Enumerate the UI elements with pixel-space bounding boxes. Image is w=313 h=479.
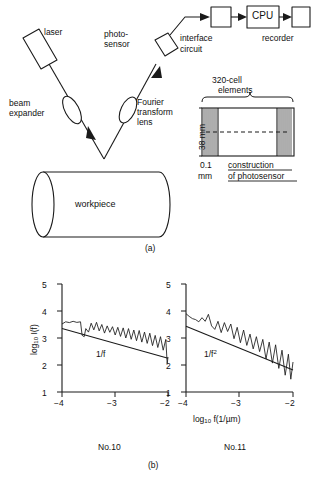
interface-circuit-box	[211, 7, 231, 27]
plot-no10	[57, 284, 168, 397]
plot-no11	[181, 284, 293, 397]
no10-spectrum-trace	[62, 321, 168, 363]
interface-circuit-label-2: circuit	[180, 45, 202, 55]
beam-expander-lens	[59, 93, 85, 126]
figure-root: laser beam expander photo- sensor Fourie…	[0, 0, 313, 479]
sensor-title-label-2: of photosensor	[228, 172, 284, 182]
fourier-lens-label-3: lens	[137, 118, 153, 128]
no10-ytick-1: 1	[42, 389, 47, 399]
no10-xtick-m2: −2	[160, 399, 170, 409]
y-axis-log-sub: 10	[33, 337, 39, 344]
no10-xtick-m3: −3	[107, 399, 117, 409]
laser-label: laser	[44, 28, 62, 38]
no11-ytick-3: 3	[166, 335, 171, 345]
panel-b-x-axis-label: log10 f(1/µm)	[193, 415, 240, 427]
photosensor-element	[155, 33, 178, 56]
workpiece-label: workpiece	[75, 200, 116, 210]
panel-b-caption: (b)	[148, 461, 158, 471]
no10-xtick-m4: −4	[54, 399, 64, 409]
cylinder-right-edge	[159, 172, 170, 237]
cell-pitch-label-1: 0.1	[200, 161, 212, 171]
incident-beam-arrowhead	[86, 126, 96, 140]
scattered-beam-arrowhead	[151, 66, 162, 78]
x-axis-freq-text: f(1/µm)	[211, 414, 240, 424]
no11-y-ticks	[181, 284, 186, 392]
array-elements-label-2: elements	[218, 86, 253, 96]
cpu-arrowhead	[238, 13, 247, 21]
interface-circuit-label-1: interface	[180, 34, 213, 44]
no11-xtick-m4: −4	[178, 399, 188, 409]
x-axis-log-text: log	[193, 414, 204, 424]
no11-slope-annotation: 1/f2	[204, 348, 217, 360]
sensor-construction-detail	[199, 92, 294, 156]
plot-left-name-label: No.10	[98, 443, 121, 453]
no11-xtick-m2: −2	[285, 399, 295, 409]
no11-x-ticks	[186, 392, 293, 397]
no11-spectrum-trace	[186, 314, 293, 380]
no10-ytick-4: 4	[42, 308, 47, 318]
no11-xtick-m3: −3	[231, 399, 241, 409]
no11-ytick-1: 1	[166, 389, 171, 399]
no11-ytick-4: 4	[166, 308, 171, 318]
recorder-box	[292, 7, 310, 27]
no11-reference-slope-line	[186, 326, 293, 370]
no11-slope-exponent: 2	[213, 349, 216, 355]
panel-a-caption: (a)	[145, 244, 155, 254]
no10-ytick-3: 3	[42, 335, 47, 345]
no10-ytick-5: 5	[42, 281, 47, 291]
cylinder-left-cap	[32, 172, 54, 237]
no11-ytick-5: 5	[166, 281, 171, 291]
cpu-label: CPU	[252, 11, 273, 21]
no10-x-ticks	[62, 392, 168, 397]
no10-ytick-2: 2	[42, 362, 47, 372]
plot-right-name-label: No.11	[224, 443, 246, 453]
cell-pitch-label-2: mm	[198, 172, 212, 182]
no10-y-ticks	[57, 284, 62, 392]
y-axis-log-text: log	[29, 344, 39, 355]
photosensor-label-2: sensor	[104, 40, 130, 50]
panel-b-y-axis-label: log10 I(f)	[30, 324, 42, 355]
recorder-arrowhead	[283, 13, 292, 21]
y-axis-if-text: I(f)	[29, 324, 39, 337]
interface-arrowhead	[200, 13, 210, 21]
no10-slope-annotation: 1/f	[96, 350, 105, 360]
no11-ytick-2: 2	[166, 362, 171, 372]
sensor-title-label-1: construction	[228, 161, 274, 171]
recorder-label: recorder	[262, 34, 294, 44]
sensor-height-label: 38 mm	[198, 124, 208, 150]
beam-expander-label-2: expander	[9, 109, 44, 119]
